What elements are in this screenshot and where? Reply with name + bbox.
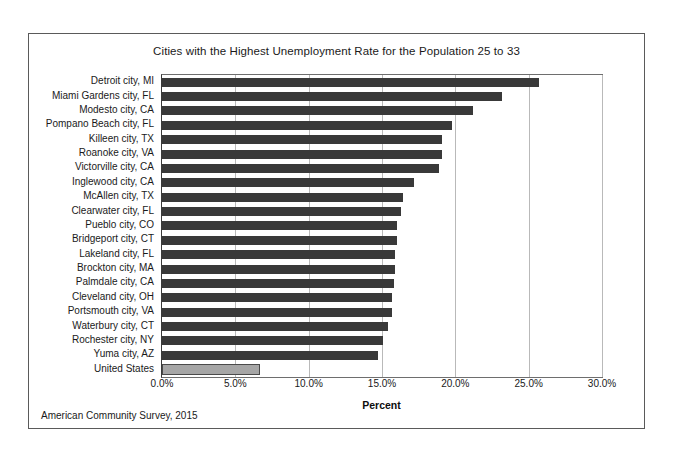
y-axis-label: Clearwater city, FL	[29, 203, 160, 217]
bar	[162, 322, 388, 331]
x-axis-tick: 20.0%	[441, 378, 469, 389]
x-axis-tick: 30.0%	[588, 378, 616, 389]
y-axis-label: Brockton city, MA	[29, 261, 160, 275]
x-axis-tick-labels: 0.0%5.0%10.0%15.0%20.0%25.0%30.0%	[161, 378, 602, 394]
y-axis-label: Lakeland city, FL	[29, 247, 160, 261]
y-axis-label: Yuma city, AZ	[29, 347, 160, 361]
bar	[162, 178, 414, 187]
bar-row	[162, 276, 602, 290]
y-axis-label: Killeen city, TX	[29, 132, 160, 146]
x-axis-tick: 10.0%	[294, 378, 322, 389]
bar	[162, 221, 397, 230]
bar-row	[162, 118, 602, 132]
chart-frame: Cities with the Highest Unemployment Rat…	[28, 33, 645, 429]
gridline	[602, 75, 603, 377]
bar-row	[162, 75, 602, 89]
bar	[162, 293, 392, 302]
bar	[162, 364, 260, 375]
bar-row	[162, 133, 602, 147]
x-axis-tick: 15.0%	[368, 378, 396, 389]
bar-row	[162, 147, 602, 161]
bar	[162, 92, 502, 101]
y-axis-category-labels: Detroit city, MIMiami Gardens city, FLMo…	[29, 74, 160, 376]
bar-row	[162, 219, 602, 233]
bar-row	[162, 248, 602, 262]
y-axis-label: Victorville city, CA	[29, 160, 160, 174]
y-axis-label: Cleveland city, OH	[29, 290, 160, 304]
bar-row	[162, 305, 602, 319]
y-axis-label: Roanoke city, VA	[29, 146, 160, 160]
y-axis-label: United States	[29, 362, 160, 376]
bar-row	[162, 262, 602, 276]
bar-row	[162, 176, 602, 190]
bar	[162, 78, 539, 87]
bar	[162, 265, 395, 274]
bar	[162, 164, 439, 173]
y-axis-label: Miami Gardens city, FL	[29, 88, 160, 102]
bar-row	[162, 291, 602, 305]
plot-area	[161, 74, 603, 378]
bar	[162, 250, 395, 259]
bar	[162, 308, 392, 317]
y-axis-label: Rochester city, NY	[29, 333, 160, 347]
bar	[162, 106, 473, 115]
bar	[162, 207, 401, 216]
y-axis-label: Detroit city, MI	[29, 74, 160, 88]
bar	[162, 336, 383, 345]
bar-row	[162, 104, 602, 118]
bar	[162, 279, 394, 288]
bar	[162, 121, 452, 130]
bar-row	[162, 89, 602, 103]
bar-row	[162, 334, 602, 348]
bar-series	[162, 75, 602, 377]
plot-wrapper: Detroit city, MIMiami Gardens city, FLMo…	[29, 74, 646, 387]
y-axis-label: Bridgeport city, CT	[29, 232, 160, 246]
y-axis-label: Palmdale city, CA	[29, 275, 160, 289]
y-axis-label: Pompano Beach city, FL	[29, 117, 160, 131]
bar-row	[162, 319, 602, 333]
bar-row	[162, 363, 602, 377]
bar-row	[162, 233, 602, 247]
y-axis-label: McAllen city, TX	[29, 189, 160, 203]
y-axis-label: Portsmouth city, VA	[29, 304, 160, 318]
x-axis-title: Percent	[161, 399, 602, 411]
y-axis-label: Inglewood city, CA	[29, 175, 160, 189]
y-axis-label: Waterbury city, CT	[29, 318, 160, 332]
x-axis-tick: 5.0%	[224, 378, 247, 389]
y-axis-label: Modesto city, CA	[29, 103, 160, 117]
bar	[162, 236, 397, 245]
bar	[162, 193, 403, 202]
chart-title: Cities with the Highest Unemployment Rat…	[29, 45, 644, 57]
bar-row	[162, 161, 602, 175]
x-axis-tick: 0.0%	[151, 378, 174, 389]
y-axis-label: Pueblo city, CO	[29, 218, 160, 232]
source-note: American Community Survey, 2015	[41, 410, 198, 421]
x-axis-tick: 25.0%	[514, 378, 542, 389]
bar	[162, 351, 378, 360]
bar-row	[162, 190, 602, 204]
bar	[162, 135, 442, 144]
bar-row	[162, 348, 602, 362]
bar	[162, 150, 442, 159]
bar-row	[162, 204, 602, 218]
